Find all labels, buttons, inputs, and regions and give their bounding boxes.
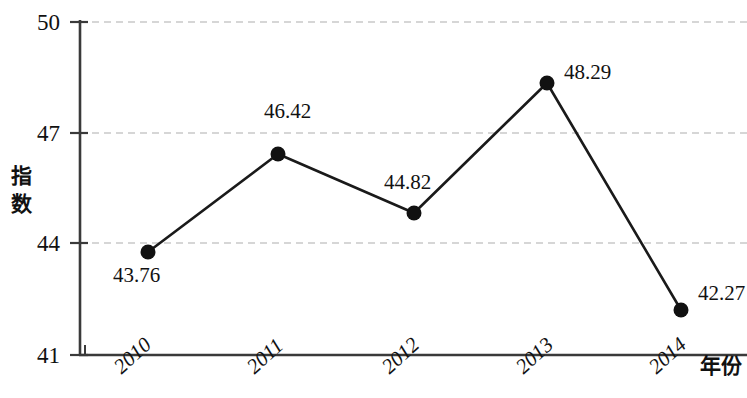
data-point-2013[interactable]: [540, 76, 555, 91]
y-axis-title: 指 数: [6, 163, 36, 218]
y-tick-label-41: 41: [16, 344, 60, 367]
data-label-2010: 43.76: [113, 265, 160, 286]
data-point-2014[interactable]: [674, 303, 689, 318]
y-tick-label-44: 44: [16, 232, 60, 255]
data-point-2011[interactable]: [271, 147, 286, 162]
data-point-2012[interactable]: [407, 206, 422, 221]
data-point-2010[interactable]: [141, 245, 156, 260]
y-axis-title-char-2: 数: [6, 191, 36, 219]
y-axis-title-char-1: 指: [6, 163, 36, 191]
x-axis-title: 年份: [700, 356, 742, 377]
data-label-2012: 44.82: [384, 172, 431, 193]
data-label-2011: 46.42: [264, 101, 311, 122]
line-chart: 50 47 44 41 指 数 2010 2011 2012 2013 2014…: [0, 0, 747, 398]
chart-canvas: [0, 0, 747, 398]
data-line-series-1: [148, 83, 681, 310]
data-label-2013: 48.29: [564, 62, 611, 83]
y-tick-label-50: 50: [16, 11, 60, 34]
data-label-2014: 42.27: [698, 283, 745, 304]
y-tick-label-47: 47: [16, 122, 60, 145]
